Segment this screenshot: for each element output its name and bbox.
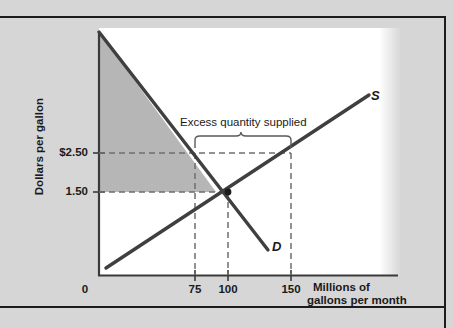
x-axis-title: Millions of gallons per month bbox=[313, 281, 445, 307]
equilibrium-point bbox=[225, 189, 232, 196]
y-tick-label-150: 1.50 bbox=[44, 185, 88, 198]
chart-figure: Dollars per gallon $2.50 1.50 0 75 100 1… bbox=[0, 0, 453, 328]
x-axis-title-line1: Millions of bbox=[313, 281, 370, 293]
excess-quantity-brace bbox=[195, 132, 291, 148]
x-tick-label-75: 75 bbox=[178, 283, 212, 296]
demand-curve-label: D bbox=[272, 240, 281, 255]
excess-quantity-label: Excess quantity supplied bbox=[180, 116, 307, 129]
x-tick-label-0: 0 bbox=[68, 283, 102, 296]
x-axis-title-line2: gallons per month bbox=[307, 294, 445, 307]
x-tick-label-100: 100 bbox=[211, 283, 245, 296]
chart-graphics bbox=[0, 0, 453, 328]
x-tick-label-150: 150 bbox=[274, 283, 308, 296]
supply-curve-label: S bbox=[371, 89, 380, 104]
y-tick-label-250: $2.50 bbox=[44, 146, 88, 159]
